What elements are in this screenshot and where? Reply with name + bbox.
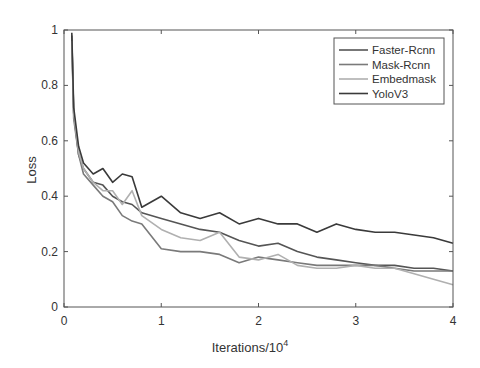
legend-label: Faster-Rcnn (372, 44, 435, 56)
legend-label: YoloV3 (372, 88, 408, 100)
x-tick-label: 3 (352, 314, 359, 328)
x-tick-label: 0 (61, 314, 68, 328)
y-tick-label: 0.4 (41, 189, 58, 203)
x-tick-label: 1 (158, 314, 165, 328)
x-tick-label: 2 (255, 314, 262, 328)
y-tick-label: 0.6 (41, 134, 58, 148)
x-axis-label: Iterations/104 (212, 338, 289, 355)
loss-chart: 0123400.20.40.60.81 Loss Iterations/104 … (0, 0, 480, 368)
legend: Faster-RcnnMask-RcnnEmbedmaskYoloV3 (334, 38, 444, 104)
y-tick-label: 0.8 (41, 78, 58, 92)
legend-label: Embedmask (372, 73, 436, 85)
y-tick-label: 0 (51, 300, 58, 314)
y-tick-label: 0.2 (41, 245, 58, 259)
y-axis-label: Loss (24, 156, 39, 184)
x-axis-label-text: Iterations/10 (212, 340, 284, 355)
y-tick-label: 1 (51, 23, 58, 37)
x-tick-label: 4 (450, 314, 457, 328)
legend-label: Mask-Rcnn (372, 59, 430, 71)
x-axis-label-exponent: 4 (283, 338, 288, 348)
